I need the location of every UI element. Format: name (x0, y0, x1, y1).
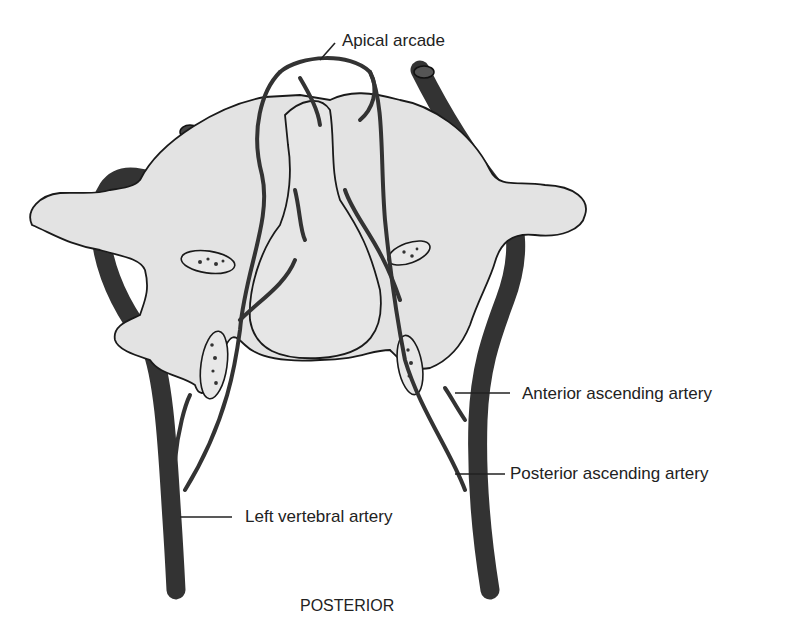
label-left-vertebral-artery: Left vertebral artery (245, 508, 392, 525)
label-anterior-ascending-artery: Anterior ascending artery (522, 385, 712, 402)
anatomical-figure: Apical arcade Anterior ascending artery … (0, 0, 791, 633)
orientation-label: POSTERIOR (300, 598, 394, 614)
vertebra-bone (30, 93, 586, 393)
label-posterior-ascending-artery: Posterior ascending artery (510, 465, 708, 482)
label-apical-arcade: Apical arcade (342, 32, 445, 49)
